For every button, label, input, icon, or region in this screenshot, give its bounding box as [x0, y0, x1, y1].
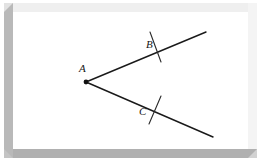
vertex-group [84, 80, 89, 85]
label-B: B [146, 38, 153, 50]
geometry-figure: A B C [0, 0, 261, 161]
vertex-point-A [84, 80, 89, 85]
label-A: A [78, 62, 86, 74]
labels-group: A B C [78, 38, 153, 117]
label-C: C [139, 105, 147, 117]
ray-AC [86, 82, 213, 137]
diagram-root: A B C [0, 0, 261, 161]
